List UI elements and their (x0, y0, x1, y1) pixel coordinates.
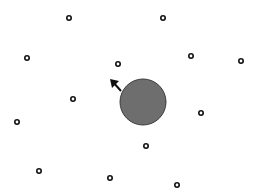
pellet-dot (144, 144, 148, 148)
pellet-dot (116, 62, 120, 66)
pellet-dot (71, 97, 75, 101)
pellet-dot (25, 56, 29, 60)
game-canvas[interactable] (0, 0, 257, 196)
pellet-dot (161, 16, 165, 20)
pellet-dot (189, 54, 193, 58)
pellet-dot (108, 176, 112, 180)
pellet-dot (37, 169, 41, 173)
player-agent (110, 79, 166, 125)
pellet-dot (67, 16, 71, 20)
pellet-dot (175, 183, 179, 187)
pellet-dot (15, 120, 19, 124)
game-field[interactable] (0, 0, 257, 196)
pellet-dot (199, 111, 203, 115)
pellet-dot (239, 59, 243, 63)
player-circle (120, 79, 166, 125)
